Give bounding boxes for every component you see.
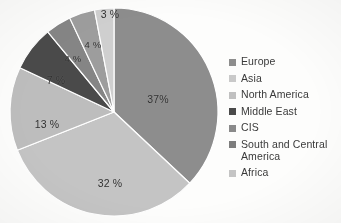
slice-value-label: 32 % [98,177,123,189]
legend-swatch-icon [229,125,236,132]
legend-swatch-icon [229,59,236,66]
pie-chart-figure: 37%32 %13 %7 %4 %4 %3 % EuropeAsiaNorth … [0,0,341,223]
legend-swatch-icon [229,170,236,177]
pie-svg [0,0,228,223]
legend-item-label: Africa [241,166,268,179]
legend-item[interactable]: Middle East [229,105,341,118]
legend-item[interactable]: Asia [229,72,341,85]
legend-item[interactable]: South and Central America [229,138,341,163]
slice-value-label: 4 % [85,39,102,50]
slice-value-label: 7 % [47,74,66,86]
legend-item-label: CIS [241,121,259,134]
pie-plot-area: 37%32 %13 %7 %4 %4 %3 % [0,0,228,223]
legend-item[interactable]: North America [229,88,341,101]
legend-swatch-icon [229,141,236,148]
slice-value-label: 37% [147,93,169,105]
legend-item-label: Europe [241,55,275,68]
legend-item[interactable]: Africa [229,166,341,179]
legend-swatch-icon [229,75,236,82]
legend-swatch-icon [229,108,236,115]
slice-value-label: 3 % [101,8,120,20]
legend-item-label: Asia [241,72,262,85]
legend-swatch-icon [229,92,236,99]
legend-item-label: South and Central America [241,138,341,163]
legend: EuropeAsiaNorth AmericaMiddle EastCISSou… [229,55,341,183]
slice-value-label: 13 % [35,118,60,130]
legend-item-label: North America [241,88,309,101]
legend-item[interactable]: CIS [229,121,341,134]
legend-item-label: Middle East [241,105,297,118]
slice-value-label: 4 % [65,53,82,64]
legend-item[interactable]: Europe [229,55,341,68]
